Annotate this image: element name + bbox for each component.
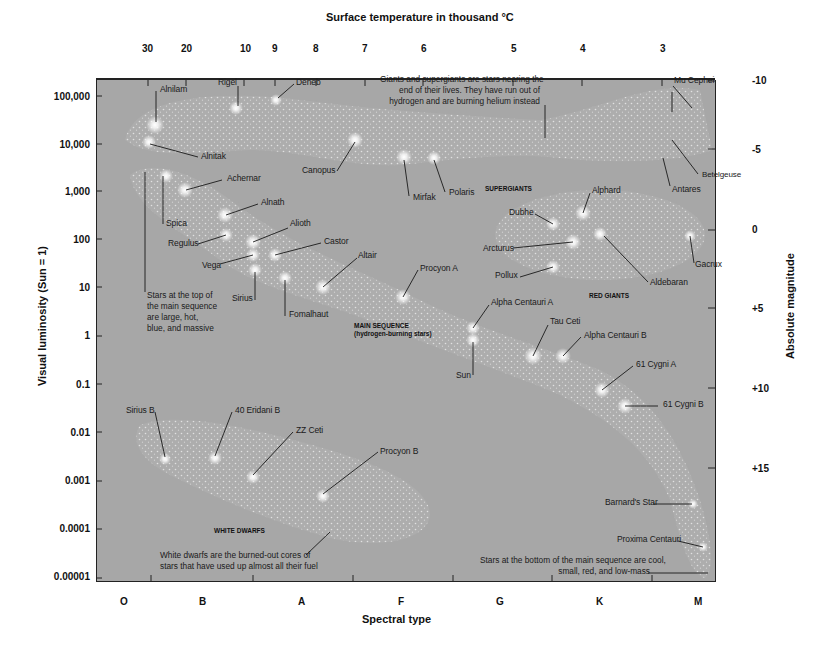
label-procyon-b: Procyon B bbox=[380, 446, 418, 456]
note-bottom-main-sequence: Stars at the bottom of the main sequence… bbox=[480, 555, 650, 577]
region-main-sequence-sub: (hydrogen-burning stars) bbox=[354, 330, 432, 337]
label-tau-ceti: Tau Ceti bbox=[550, 316, 580, 326]
label-alnitak: Alnitak bbox=[201, 151, 226, 161]
label-40-eridani-b: 40 Eridani B bbox=[235, 405, 280, 415]
label-achernar: Achernar bbox=[227, 173, 261, 183]
label-antares: Antares bbox=[672, 184, 701, 194]
label-alphard: Alphard bbox=[592, 185, 621, 195]
label-mu-cephei: Mu Cephei bbox=[674, 75, 714, 85]
label-canopus: Canopus bbox=[302, 165, 335, 175]
label-regulus: Regulus bbox=[168, 238, 199, 248]
label-gacrux: Gacrux bbox=[695, 259, 722, 269]
note-line: Stars at the bottom of the main sequence… bbox=[480, 555, 650, 566]
label-proxima-centauri: Proxima Centauri bbox=[617, 534, 681, 544]
note-line: blue, and massive bbox=[147, 323, 217, 334]
note-giants-line: Giants and supergiants are stars nearing… bbox=[380, 74, 540, 85]
label-rigel: Rigel bbox=[218, 77, 237, 87]
note-line: the main sequence bbox=[147, 301, 217, 312]
label-zz-ceti: ZZ Ceti bbox=[296, 425, 323, 435]
region-white-dwarfs: WHITE DWARFS bbox=[214, 527, 265, 534]
note-line: Stars at the top of bbox=[147, 290, 217, 301]
note-white-dwarfs: White dwarfs are the burned-out cores of… bbox=[160, 550, 310, 572]
label-alioth: Alioth bbox=[290, 218, 311, 228]
label-vega: Vega bbox=[202, 260, 221, 270]
label-alpha-centauri-a: Alpha Centauri A bbox=[491, 297, 553, 307]
label-sun: Sun bbox=[456, 370, 471, 380]
label-fomalhaut: Fomalhaut bbox=[289, 309, 328, 319]
label-61-cygni-a: 61 Cygni A bbox=[636, 359, 676, 369]
note-giants-line: end of their lives. They have run out of bbox=[380, 85, 540, 96]
left-tick-marks bbox=[96, 96, 102, 578]
label-betelgeuse: Betelgeuse bbox=[702, 170, 741, 179]
note-top-main-sequence: Stars at the top of the main sequence ar… bbox=[147, 290, 217, 334]
note-line: stars that have used up almost all their… bbox=[160, 561, 310, 572]
region-red-giants: RED GIANTS bbox=[589, 292, 629, 299]
label-pollux: Pollux bbox=[495, 270, 518, 280]
label-arcturus: Arcturus bbox=[483, 243, 514, 253]
label-castor: Castor bbox=[324, 236, 348, 246]
label-alnath: Alnath bbox=[261, 197, 285, 207]
note-line: are large, hot, bbox=[147, 312, 217, 323]
label-alnilam: Alnilam bbox=[160, 84, 187, 94]
label-barnards-star: Barnard's Star bbox=[605, 497, 658, 507]
note-line: small, red, and low-mass bbox=[480, 566, 650, 577]
note-giants: Giants and supergiants are stars nearing… bbox=[380, 74, 540, 107]
label-altair: Altair bbox=[358, 250, 377, 260]
region-main-sequence: MAIN SEQUENCE bbox=[354, 322, 409, 329]
label-aldebaran: Aldebaran bbox=[650, 277, 688, 287]
white-dwarf-cloud bbox=[136, 420, 430, 543]
label-polaris: Polaris bbox=[449, 187, 474, 197]
label-deneb: Deneb bbox=[296, 77, 321, 87]
label-mirfak: Mirfak bbox=[413, 192, 436, 202]
label-61-cygni-b: 61 Cygni B bbox=[663, 399, 704, 409]
label-sirius-b: Sirius B bbox=[126, 405, 155, 415]
label-procyon-a: Procyon A bbox=[420, 263, 458, 273]
note-line: White dwarfs are the burned-out cores of bbox=[160, 550, 310, 561]
note-giants-line: hydrogen and are burning helium instead bbox=[380, 96, 540, 107]
label-dubhe: Dubhe bbox=[509, 207, 534, 217]
label-sirius: Sirius bbox=[232, 293, 253, 303]
label-spica: Spica bbox=[166, 218, 187, 228]
label-alpha-centauri-b: Alpha Centauri B bbox=[584, 330, 647, 340]
region-supergiants: SUPERGIANTS bbox=[485, 185, 532, 192]
